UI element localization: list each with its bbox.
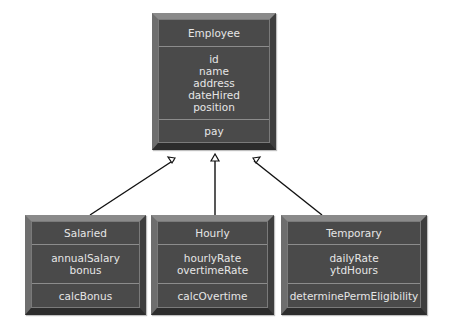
class-hourly: Hourly hourlyRate overtimeRate calcOvert… bbox=[151, 215, 274, 315]
attribute: position bbox=[159, 101, 269, 113]
methods-section: pay bbox=[159, 119, 269, 142]
attributes-section: dailyRate ytdHours bbox=[288, 244, 420, 283]
salaried-to-employee-line bbox=[90, 160, 174, 215]
attribute: name bbox=[159, 65, 269, 77]
attribute: dateHired bbox=[159, 89, 269, 101]
attributes-section: annualSalary bonus bbox=[32, 244, 139, 283]
methods-section: determinePermEligibility bbox=[288, 283, 420, 307]
attribute: dailyRate bbox=[288, 252, 420, 264]
class-name-section: Salaried bbox=[32, 222, 139, 244]
temporary-to-employee-line bbox=[254, 161, 322, 215]
salaried-arrowhead-icon bbox=[168, 157, 175, 163]
attribute: hourlyRate bbox=[158, 252, 267, 264]
method: calcBonus bbox=[32, 290, 139, 302]
class-salaried: Salaried annualSalary bonus calcBonus bbox=[25, 215, 146, 315]
attribute: overtimeRate bbox=[158, 264, 267, 276]
class-name: Temporary bbox=[288, 227, 420, 239]
hourly-arrowhead-icon bbox=[211, 154, 219, 161]
method: pay bbox=[159, 125, 269, 137]
class-name-section: Employee bbox=[159, 20, 269, 46]
class-name: Hourly bbox=[158, 227, 267, 239]
class-employee: Employee id name address dateHired posit… bbox=[152, 13, 276, 150]
attribute: address bbox=[159, 77, 269, 89]
class-name-section: Hourly bbox=[158, 222, 267, 244]
class-name: Employee bbox=[159, 27, 269, 39]
class-name-section: Temporary bbox=[288, 222, 420, 244]
method: determinePermEligibility bbox=[288, 290, 420, 302]
methods-section: calcBonus bbox=[32, 283, 139, 307]
attributes-section: hourlyRate overtimeRate bbox=[158, 244, 267, 283]
method: calcOvertime bbox=[158, 290, 267, 302]
attribute: bonus bbox=[32, 264, 139, 276]
class-temporary: Temporary dailyRate ytdHours determinePe… bbox=[281, 215, 427, 315]
attribute: annualSalary bbox=[32, 252, 139, 264]
attribute: id bbox=[159, 53, 269, 65]
methods-section: calcOvertime bbox=[158, 283, 267, 307]
temporary-arrowhead-icon bbox=[253, 157, 260, 163]
class-name: Salaried bbox=[32, 227, 139, 239]
attributes-section: id name address dateHired position bbox=[159, 46, 269, 119]
attribute: ytdHours bbox=[288, 264, 420, 276]
